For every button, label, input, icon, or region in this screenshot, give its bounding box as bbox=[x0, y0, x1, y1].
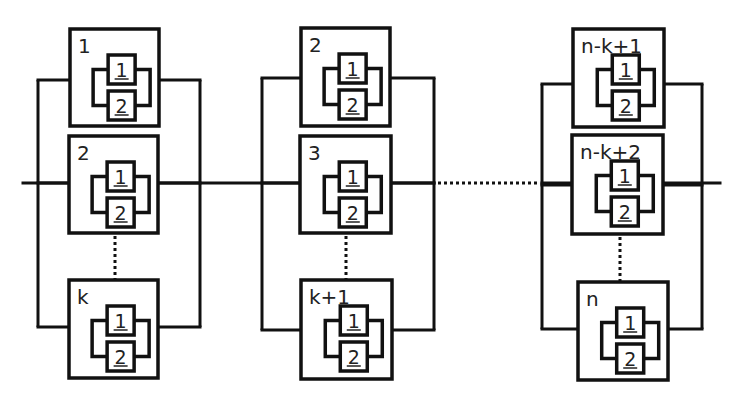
sub-component-2: 2 bbox=[108, 91, 135, 120]
block-n: n12 bbox=[578, 282, 668, 380]
sub-component-label: 1 bbox=[619, 165, 631, 187]
block-label: 3 bbox=[308, 141, 321, 165]
sub-component-label: 2 bbox=[116, 95, 128, 117]
block-n-k+2: n-k+212 bbox=[572, 135, 663, 234]
sub-component-label: 1 bbox=[347, 166, 359, 188]
sub-component-2: 2 bbox=[107, 198, 134, 227]
sub-component-label: 2 bbox=[348, 346, 360, 368]
sub-component-1: 1 bbox=[611, 161, 638, 190]
block-label: n bbox=[586, 287, 599, 311]
sub-component-label: 1 bbox=[115, 310, 127, 332]
sub-component-2: 2 bbox=[107, 342, 134, 371]
block-label: k bbox=[77, 285, 89, 309]
block-2: 212 bbox=[69, 136, 158, 233]
reliability-block-diagram: 112212k12212312k+112n-k+112n-k+212n12 bbox=[0, 0, 735, 401]
sub-component-2: 2 bbox=[340, 342, 367, 371]
sub-component-2: 2 bbox=[611, 197, 638, 226]
sub-component-label: 2 bbox=[115, 346, 127, 368]
sub-component-2: 2 bbox=[612, 91, 639, 120]
sub-component-1: 1 bbox=[612, 55, 639, 84]
sub-component-1: 1 bbox=[339, 162, 366, 191]
sub-component-2: 2 bbox=[617, 344, 644, 373]
sub-component-1: 1 bbox=[339, 54, 366, 83]
sub-component-1: 1 bbox=[617, 308, 644, 337]
sub-component-label: 1 bbox=[115, 166, 127, 188]
group-2: 212312k+112 bbox=[300, 28, 392, 379]
sub-component-label: 1 bbox=[348, 310, 360, 332]
group-3: n-k+112n-k+212n12 bbox=[572, 29, 668, 380]
block-2: 212 bbox=[301, 28, 390, 126]
block-3: 312 bbox=[300, 136, 391, 233]
sub-component-1: 1 bbox=[108, 55, 135, 84]
sub-component-label: 2 bbox=[347, 94, 359, 116]
block-n-k+1: n-k+112 bbox=[573, 29, 664, 127]
sub-component-label: 2 bbox=[620, 95, 632, 117]
group-1: 112212k12 bbox=[69, 29, 159, 378]
block-label: 2 bbox=[77, 141, 90, 165]
sub-component-label: 1 bbox=[116, 59, 128, 81]
sub-component-label: 1 bbox=[620, 59, 632, 81]
block-label: 2 bbox=[309, 33, 322, 57]
sub-component-label: 2 bbox=[624, 348, 636, 370]
sub-component-1: 1 bbox=[340, 306, 367, 335]
sub-component-label: 1 bbox=[624, 312, 636, 334]
sub-component-1: 1 bbox=[107, 306, 134, 335]
sub-component-label: 1 bbox=[347, 58, 359, 80]
sub-component-label: 2 bbox=[115, 202, 127, 224]
sub-component-label: 2 bbox=[619, 201, 631, 223]
sub-component-2: 2 bbox=[339, 90, 366, 119]
blocks-layer: 112212k12212312k+112n-k+112n-k+212n12 bbox=[69, 28, 668, 380]
block-k+1: k+112 bbox=[301, 280, 392, 379]
block-label: 1 bbox=[78, 34, 91, 58]
block-1: 112 bbox=[70, 29, 159, 126]
sub-component-label: 2 bbox=[347, 202, 359, 224]
block-k: k12 bbox=[69, 280, 158, 378]
sub-component-2: 2 bbox=[339, 198, 366, 227]
sub-component-1: 1 bbox=[107, 162, 134, 191]
